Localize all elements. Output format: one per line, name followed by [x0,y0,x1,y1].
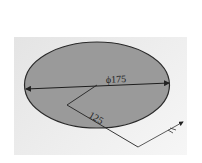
svg-text:ϕ175: ϕ175 [106,73,127,85]
ellipse-diagram: ϕ175 125 [0,0,202,163]
coordinate-axes-icon [138,122,183,147]
diameter-label: ϕ175 [106,73,127,85]
